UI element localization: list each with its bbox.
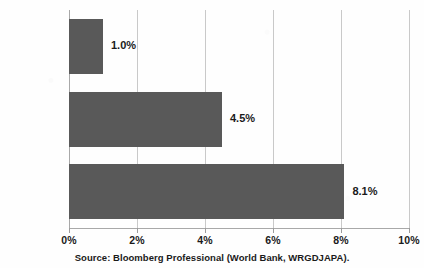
tick-mark-4pct <box>205 228 206 233</box>
chart-screenshot: 1991-20171975-19901961-1974 0%2%4%6%8%10… <box>0 0 424 268</box>
gridline-10pct <box>409 10 410 228</box>
source-note: Source: Bloomberg Professional (World Ba… <box>0 252 424 263</box>
x-tick-label: 2% <box>129 234 144 246</box>
x-tick-label: 0% <box>61 234 76 246</box>
x-axis-line <box>69 228 410 229</box>
bar <box>69 19 103 74</box>
tick-mark-0pct <box>69 228 70 233</box>
bar-value-label: 4.5% <box>230 113 255 124</box>
bar-value-label: 1.0% <box>111 40 136 51</box>
chart-title-remnant <box>0 0 424 7</box>
bar-value-label: 8.1% <box>352 186 377 197</box>
tick-mark-10pct <box>409 228 410 233</box>
bar <box>69 92 222 147</box>
bar <box>69 164 344 219</box>
x-tick-label: 6% <box>265 234 280 246</box>
x-tick-label: 4% <box>197 234 212 246</box>
tick-mark-2pct <box>137 228 138 233</box>
x-tick-label: 10% <box>398 234 419 246</box>
tick-mark-8pct <box>341 228 342 233</box>
x-tick-label: 8% <box>333 234 348 246</box>
tick-mark-6pct <box>273 228 274 233</box>
